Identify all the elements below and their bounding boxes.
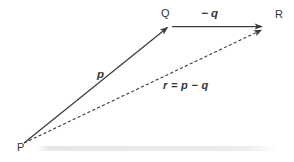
point-label-q: Q xyxy=(161,8,170,19)
point-label-r: R xyxy=(275,9,283,20)
vector-label-p: p xyxy=(97,69,104,81)
vector-label-minus-q: − q xyxy=(201,8,218,20)
vector-label-r-equation: r = p − q xyxy=(163,80,209,91)
vector-diagram: P Q R p − q r = p − q xyxy=(0,0,294,162)
vector-diagram-canvas xyxy=(0,0,294,162)
point-label-p: P xyxy=(17,142,25,153)
vector-p-line xyxy=(24,28,168,144)
